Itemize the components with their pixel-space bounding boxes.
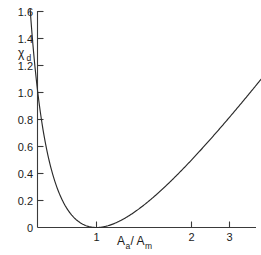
x-axis-title-slash: /	[131, 234, 135, 248]
y-tick-label-0: 0	[27, 222, 33, 234]
x-axis-title-main-2: A	[137, 234, 145, 248]
chart-figure: 1.6 1.4 1.2 1.0 0.8 0.6 0.4 0.2 0 1 2 3 …	[0, 0, 261, 255]
x-tick-label-2: 2	[188, 231, 194, 243]
x-tick-label-3: 3	[226, 231, 232, 243]
y-tick-label-0.4: 0.4	[18, 168, 33, 180]
y-axis-title-main: χ	[18, 46, 25, 60]
y-tick-label-0.2: 0.2	[18, 195, 33, 207]
data-curve-chi-d	[30, 9, 261, 228]
chart-plot-area: 1.6 1.4 1.2 1.0 0.8 0.6 0.4 0.2 0 1 2 3 …	[0, 0, 261, 255]
y-axis-title-subscript: d	[27, 53, 32, 63]
x-tick-label-1: 1	[93, 231, 99, 243]
x-axis-title-main-1: A	[117, 234, 125, 248]
x-axis-title-subscript-2: m	[145, 241, 152, 251]
y-tick-marks	[38, 12, 44, 201]
x-axis-title: A a / A m	[117, 234, 152, 251]
y-tick-label-1.0: 1.0	[18, 87, 33, 99]
y-tick-label-0.8: 0.8	[18, 114, 33, 126]
y-tick-label-0.6: 0.6	[18, 141, 33, 153]
y-tick-label-1.4: 1.4	[18, 33, 33, 45]
